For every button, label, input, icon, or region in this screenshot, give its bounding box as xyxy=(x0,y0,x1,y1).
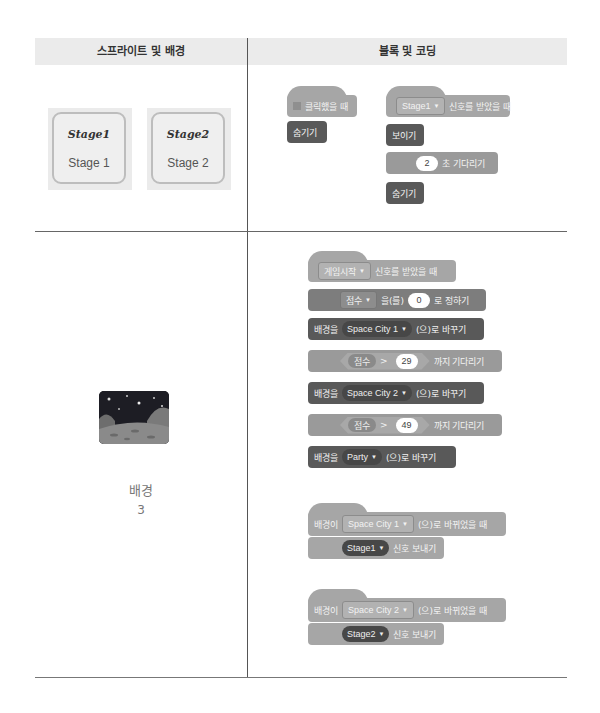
chevron-down-icon: ▼ xyxy=(371,454,377,460)
block-label: 신호 보내기 xyxy=(393,542,436,555)
chevron-down-icon: ▼ xyxy=(379,545,385,551)
when-i-receive-block[interactable]: Stage1▼ 신호를 받았을 때 xyxy=(386,95,510,117)
message-dropdown[interactable]: Stage1▼ xyxy=(396,97,445,115)
block-label: 을(를) xyxy=(381,294,404,307)
block-label: (으)로 바꾸기 xyxy=(386,451,436,464)
block-label: 배경을 xyxy=(314,387,338,400)
backdrop-label: 배경 xyxy=(35,480,247,499)
chevron-down-icon: ▼ xyxy=(434,103,440,109)
seconds-input[interactable]: 2 xyxy=(416,156,438,171)
block-label: (으)로 바뀌었을 때 xyxy=(418,604,487,617)
block-label: 신호 보내기 xyxy=(393,628,436,641)
green-flag-icon xyxy=(293,102,301,110)
backdrop-dropdown[interactable]: Space City 2▼ xyxy=(342,601,414,619)
chevron-down-icon: ▼ xyxy=(365,297,371,303)
chevron-down-icon: ▼ xyxy=(401,390,407,396)
chevron-down-icon: ▼ xyxy=(401,326,407,332)
chevron-down-icon: ▼ xyxy=(379,631,385,637)
switch-backdrop-block[interactable]: 배경을 Party▼ (으)로 바꾸기 xyxy=(308,446,456,468)
message-dropdown[interactable]: Stage1▼ xyxy=(342,540,389,556)
block-label: 초 기다리기 xyxy=(442,157,485,170)
block-label: 배경이 xyxy=(314,518,338,531)
set-variable-block[interactable]: 점수▼ 을(를) 0 로 정하기 xyxy=(308,289,486,311)
block-label: 신호를 받았을 때 xyxy=(375,265,437,278)
table-header: 스프라이트 및 배경 블록 및 코딩 xyxy=(35,38,567,65)
switch-backdrop-block[interactable]: 배경을 Space City 1▼ (으)로 바꾸기 xyxy=(308,318,484,340)
block-label: 배경이 xyxy=(314,604,338,617)
backdrop-dropdown[interactable]: Space City 2▼ xyxy=(342,385,412,401)
block-label: 까지 기다리기 xyxy=(434,355,485,368)
sprite-card: Stage2 Stage 2 xyxy=(151,112,225,184)
block-label: 배경을 xyxy=(314,323,338,336)
backdrop-dropdown[interactable]: Space City 1▼ xyxy=(342,515,414,533)
show-block[interactable]: 보이기 xyxy=(386,124,424,146)
block-label: (으)로 바꾸기 xyxy=(416,323,466,336)
variable-reporter[interactable]: 점수 xyxy=(348,354,376,368)
wait-seconds-block[interactable]: 2 초 기다리기 xyxy=(386,152,498,174)
sprite-tile-stage1[interactable]: Stage1 Stage 1 xyxy=(48,108,132,190)
row-divider xyxy=(35,231,567,232)
block-label: 숨기기 xyxy=(293,126,317,139)
block-label: 로 정하기 xyxy=(434,294,469,307)
backdrop-thumbnail[interactable] xyxy=(99,391,169,444)
backdrop-count: 3 xyxy=(35,503,247,517)
block-label: 배경을 xyxy=(314,451,338,464)
sprite-thumbnail: Stage2 xyxy=(153,128,223,141)
operator-symbol: > xyxy=(380,356,388,366)
block-label: 보이기 xyxy=(392,129,416,142)
value-input[interactable]: 29 xyxy=(396,354,418,369)
chevron-down-icon: ▼ xyxy=(402,607,408,613)
header-sprites-backgrounds: 스프라이트 및 배경 xyxy=(35,38,247,65)
sprite-card: Stage1 Stage 1 xyxy=(52,112,126,184)
variable-dropdown[interactable]: 점수▼ xyxy=(340,291,377,309)
when-i-receive-block[interactable]: 게임시작▼ 신호를 받았을 때 xyxy=(308,260,456,282)
block-label: (으)로 바뀌었을 때 xyxy=(418,518,487,531)
wait-until-block[interactable]: 점수 > 29 까지 기다리기 xyxy=(308,350,502,372)
sprite-tile-stage2[interactable]: Stage2 Stage 2 xyxy=(147,108,231,190)
sprite-name: Stage 2 xyxy=(153,156,223,170)
hide-block[interactable]: 숨기기 xyxy=(386,182,424,204)
message-dropdown[interactable]: Stage2▼ xyxy=(342,626,389,642)
block-label: 숨기기 xyxy=(392,187,416,200)
broadcast-block[interactable]: Stage2▼ 신호 보내기 xyxy=(308,623,444,645)
block-label: 클릭했을 때 xyxy=(305,100,348,113)
space-city-backdrop-icon xyxy=(99,391,169,444)
sprite-thumbnail: Stage1 xyxy=(54,128,124,141)
broadcast-block[interactable]: Stage1▼ 신호 보내기 xyxy=(308,537,444,559)
backdrop-dropdown[interactable]: Party▼ xyxy=(342,449,382,465)
greater-than-condition[interactable]: 점수 > 29 xyxy=(340,353,430,370)
operator-symbol: > xyxy=(380,420,388,430)
greater-than-condition[interactable]: 점수 > 49 xyxy=(340,417,430,434)
value-input[interactable]: 0 xyxy=(408,293,430,308)
backdrop-dropdown[interactable]: Space City 1▼ xyxy=(342,321,412,337)
chevron-down-icon: ▼ xyxy=(359,268,365,274)
value-input[interactable]: 49 xyxy=(396,418,418,433)
switch-backdrop-block[interactable]: 배경을 Space City 2▼ (으)로 바꾸기 xyxy=(308,382,484,404)
header-blocks-coding: 블록 및 코딩 xyxy=(248,38,567,65)
hide-block[interactable]: 숨기기 xyxy=(287,121,327,143)
block-label: 까지 기다리기 xyxy=(434,419,485,432)
table-bottom-border xyxy=(35,677,567,678)
sprite-name: Stage 1 xyxy=(54,156,124,170)
column-divider xyxy=(247,38,248,678)
block-label: 신호를 받았을 때 xyxy=(449,100,511,113)
when-flag-clicked-block[interactable]: 클릭했을 때 xyxy=(287,95,357,117)
when-backdrop-switches-block[interactable]: 배경이 Space City 1▼ (으)로 바뀌었을 때 xyxy=(308,512,506,536)
message-dropdown[interactable]: 게임시작▼ xyxy=(318,262,371,280)
block-label: (으)로 바꾸기 xyxy=(416,387,466,400)
chevron-down-icon: ▼ xyxy=(402,521,408,527)
wait-until-block[interactable]: 점수 > 49 까지 기다리기 xyxy=(308,414,502,436)
variable-reporter[interactable]: 점수 xyxy=(348,418,376,432)
when-backdrop-switches-block[interactable]: 배경이 Space City 2▼ (으)로 바뀌었을 때 xyxy=(308,598,506,622)
